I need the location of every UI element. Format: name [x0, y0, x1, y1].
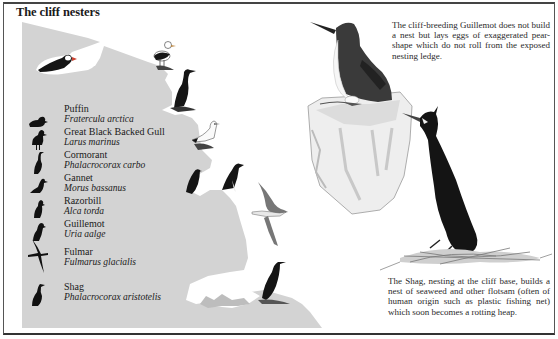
scientific-name: Morus bassanus [64, 183, 126, 193]
common-name: Puffin [64, 104, 134, 114]
scientific-name: Alca torda [64, 206, 104, 216]
guillemot-ledge-bird-icon [222, 164, 244, 192]
shag-silhouette-icon [28, 282, 48, 306]
rock-pillar [308, 92, 412, 214]
common-name: Gannet [64, 173, 126, 183]
scientific-name: Fratercula arctica [64, 114, 134, 124]
common-name: Guillemot [64, 219, 105, 229]
scientific-name: Fulmarus glacialis [64, 257, 136, 267]
scientific-name: Phalacrocorax aristotelis [64, 292, 161, 302]
page-title: The cliff nesters [16, 5, 100, 20]
common-name: Shag [64, 282, 161, 292]
scientific-name: Uria aalge [64, 229, 105, 239]
fulmar-silhouette-icon [28, 239, 48, 273]
shag-large-bird-icon [402, 106, 477, 256]
fulmar-bird-icon [252, 182, 288, 246]
scientific-name: Larus marinus [64, 137, 165, 147]
scientific-name: Phalacrocorax carbo [64, 160, 145, 170]
shag-caption: The Shag, nesting at the cliff base, bui… [388, 276, 550, 317]
common-name: Cormorant [64, 150, 145, 160]
legend-item-fulmar: Fulmar Fulmarus glacialis [28, 247, 198, 273]
legend-item-guillemot: Guillemot Uria aalge [28, 219, 198, 245]
gull-silhouette-icon [28, 127, 48, 151]
cormorant-silhouette-icon [28, 150, 48, 174]
common-name: Fulmar [64, 247, 136, 257]
seaweed-nest [380, 248, 552, 270]
gannet-silhouette-icon [28, 173, 48, 197]
common-name: Razorbill [64, 196, 104, 206]
guillemot-large-bird-icon [310, 22, 392, 106]
legend-item-shag: Shag Phalacrocorax aristotelis [28, 282, 198, 308]
guillemot-caption: The cliff-breeding Guillemot does not bu… [392, 20, 550, 61]
razorbill-silhouette-icon [28, 196, 48, 220]
common-name: Great Black Backed Gull [64, 127, 165, 137]
